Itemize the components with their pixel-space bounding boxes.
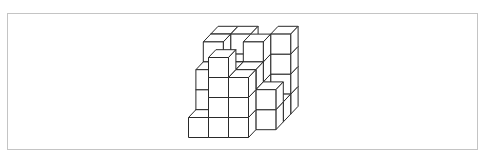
cube-front-face bbox=[256, 90, 276, 110]
cube-front-face bbox=[271, 34, 291, 54]
cube-stack-diagram bbox=[0, 0, 487, 161]
unit-cube bbox=[229, 70, 256, 98]
cube-front-face bbox=[209, 118, 229, 138]
cube-front-face bbox=[209, 98, 229, 118]
unit-cube bbox=[243, 34, 270, 62]
cube-front-face bbox=[189, 118, 209, 138]
cube-front-face bbox=[271, 54, 291, 74]
cube-front-face bbox=[209, 58, 229, 78]
cube-front-face bbox=[256, 110, 276, 130]
cube-front-face bbox=[209, 78, 229, 98]
cube-front-face bbox=[229, 78, 249, 98]
cube-front-face bbox=[229, 118, 249, 138]
unit-cube bbox=[256, 82, 283, 110]
cube-front-face bbox=[229, 98, 249, 118]
cube-front-face bbox=[243, 42, 263, 62]
unit-cube bbox=[271, 26, 298, 54]
